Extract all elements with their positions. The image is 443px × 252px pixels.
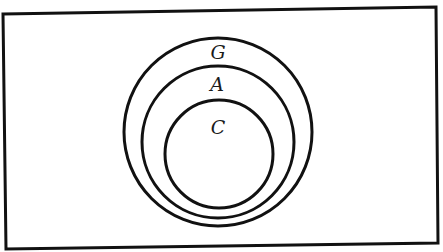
set-g-label: G [210, 41, 225, 63]
set-a-label: A [208, 73, 224, 95]
venn-diagram: G A C [0, 0, 443, 252]
set-c-label: C [211, 116, 226, 138]
